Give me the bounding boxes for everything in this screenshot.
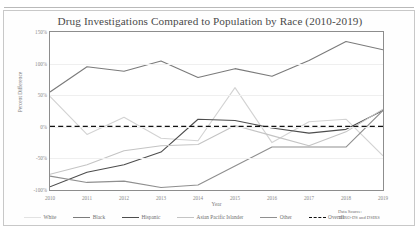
legend-item-other[interactable]: Other [260,214,292,220]
legend-label: Asian Pacific Islander [197,214,244,220]
gridline [50,127,383,128]
legend-label: Black [93,214,105,220]
data-source-value: THRO-DS and DSIRS [338,215,408,221]
legend-label: White [44,214,57,220]
y-tick-label: 0% [21,124,47,130]
legend-swatch-icon [309,217,326,218]
series-line-black [50,41,383,92]
legend-item-white[interactable]: White [24,214,56,220]
gridline [50,158,383,159]
legend-swatch-icon [24,217,41,218]
data-source-note: Data Source: THRO-DS and DSIRS [338,209,408,221]
chart-title: Drug Investigations Compared to Populati… [4,15,416,27]
plot-area [49,31,384,191]
legend-swatch-icon [122,217,139,218]
chart-legend: WhiteBlackHispanicAsian Pacific Islander… [24,211,344,223]
series-line-white [50,88,383,156]
legend-item-black[interactable]: Black [73,214,105,220]
legend-swatch-icon [177,217,194,218]
y-tick-label: 50% [21,92,47,98]
legend-label: Other [280,214,292,220]
legend-swatch-icon [260,217,277,218]
series-line-asian-pacific-islander [50,109,383,174]
y-tick-label: -50% [21,155,47,161]
legend-swatch-icon [73,217,90,218]
legend-item-asian-pacific-islander[interactable]: Asian Pacific Islander [177,214,243,220]
legend-label: Hispanic [141,214,160,220]
y-tick-label: 150% [21,29,47,35]
y-tick-label: 100% [21,61,47,67]
series-lines [50,32,383,190]
x-axis-title: Year [49,201,384,207]
figure-frame: Drug Investigations Compared to Populati… [3,10,415,226]
gridline [50,95,383,96]
y-tick-label: -100% [21,187,47,193]
legend-item-hispanic[interactable]: Hispanic [122,214,160,220]
series-line-other [50,110,383,187]
document-top-rule [0,0,418,9]
y-axis-title: Percent Difference [17,57,23,127]
gridline [50,64,383,65]
